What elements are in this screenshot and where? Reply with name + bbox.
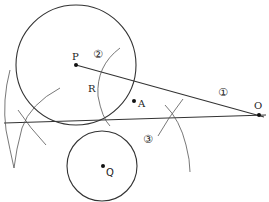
label-p: P — [72, 51, 79, 62]
arc-right — [165, 105, 190, 172]
arc-left-inner — [14, 88, 60, 168]
step-label-2: ② — [93, 48, 103, 61]
step-label-1: ① — [218, 86, 228, 99]
line-po — [76, 65, 264, 117]
point-p — [74, 63, 78, 67]
geometry-figure: P R A O Q ② ① ③ — [0, 0, 269, 202]
point-q — [101, 164, 105, 168]
diagram-canvas: P R A O Q ② ① ③ — [0, 0, 269, 202]
label-r: R — [88, 83, 96, 94]
line-tangent — [4, 115, 266, 123]
label-a: A — [137, 98, 146, 109]
step-label-3: ③ — [143, 133, 153, 146]
point-a — [132, 99, 136, 103]
arc-left-outer — [5, 70, 14, 168]
label-q: Q — [106, 167, 114, 178]
point-o — [257, 113, 261, 117]
label-o: O — [254, 100, 262, 111]
